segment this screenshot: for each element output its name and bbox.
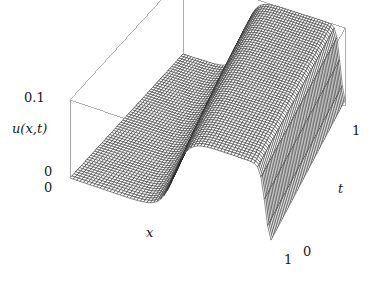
z-axis-title: u(x,t) <box>12 122 47 135</box>
z-axis-min-tick-label: 0 <box>44 165 52 178</box>
t-axis-title: t <box>338 182 343 195</box>
z-axis-max-tick-label: 0.1 <box>24 91 45 104</box>
t-axis-max-tick-label: 1 <box>352 124 360 137</box>
plot-canvas <box>0 0 382 283</box>
surface-plot-figure: 0.1 0 u(x,t) 0 1 x 0 1 t <box>0 0 382 283</box>
surface-mesh <box>70 4 345 240</box>
t-axis-min-tick-label: 0 <box>303 245 311 258</box>
x-axis-min-tick-label: 0 <box>44 181 52 194</box>
x-axis-max-tick-label: 1 <box>284 253 292 266</box>
x-axis-title: x <box>146 226 153 239</box>
